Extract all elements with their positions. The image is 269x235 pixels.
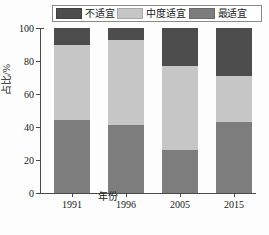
legend-item-most: 最适宜: [189, 8, 247, 19]
bar-1996[interactable]: [108, 28, 144, 193]
x-tick-1991: [72, 193, 73, 197]
bar-2005[interactable]: [162, 28, 198, 193]
bar-segment-most-2005: [162, 150, 198, 193]
x-tick-label-2015: 2015: [224, 199, 244, 210]
y-tick-label-100: 100: [19, 23, 34, 34]
legend-item-moderate: 中度适宜: [117, 8, 185, 19]
y-tick-label-60: 60: [24, 89, 34, 100]
legend-item-unsuitable: 不适宜: [56, 8, 114, 19]
legend-label-unsuitable: 不适宜: [85, 8, 114, 19]
chart-legend: 不适宜 中度适宜 最适宜: [52, 5, 262, 22]
bar-segment-unsuitable-2005: [162, 28, 198, 66]
stacked-bar-chart: 不适宜 中度适宜 最适宜 占比/% 0 20 40: [0, 0, 269, 235]
y-axis-title: 占比/%: [0, 64, 13, 95]
y-tick-label-40: 40: [24, 122, 34, 133]
y-tick-label-20: 20: [24, 155, 34, 166]
bar-1991[interactable]: [54, 28, 90, 193]
legend-swatch-moderate: [117, 8, 143, 19]
x-tick-label-1996: 1996: [116, 199, 136, 210]
x-axis-title: 年份: [98, 188, 118, 203]
bar-segment-unsuitable-1991: [54, 28, 90, 45]
bar-segment-most-1991: [54, 120, 90, 193]
bar-segment-moderate-2015: [216, 76, 252, 122]
legend-swatch-most: [189, 8, 215, 19]
bar-segment-unsuitable-1996: [108, 28, 144, 40]
bar-segment-moderate-1991: [54, 45, 90, 121]
bar-segment-unsuitable-2015: [216, 28, 252, 76]
x-tick-2005: [180, 193, 181, 197]
legend-label-most: 最适宜: [218, 8, 247, 19]
x-tick-1996: [126, 193, 127, 197]
x-tick-label-1991: 1991: [62, 199, 82, 210]
bar-segment-most-2015: [216, 122, 252, 193]
bar-2015[interactable]: [216, 28, 252, 193]
y-axis-line: [40, 28, 41, 194]
legend-swatch-unsuitable: [56, 8, 82, 19]
y-axis-top-cap: [40, 28, 44, 29]
y-tick-label-80: 80: [24, 56, 34, 67]
bar-segment-most-1996: [108, 125, 144, 193]
legend-label-moderate: 中度适宜: [146, 8, 185, 19]
y-tick-label-0: 0: [29, 188, 34, 199]
x-tick-2015: [234, 193, 235, 197]
bar-segment-moderate-2005: [162, 66, 198, 150]
bar-segment-moderate-1996: [108, 40, 144, 126]
plot-area: 0 20 40 60 80 100: [40, 28, 256, 193]
x-tick-label-2005: 2005: [170, 199, 190, 210]
